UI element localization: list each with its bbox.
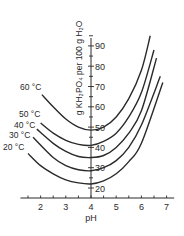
y-axis-label: g KH₂PO₄ per 100 g H₂O	[74, 20, 84, 115]
x-tick-label: 6	[139, 202, 144, 212]
y-tick-label: 80	[95, 62, 105, 72]
curve-label: 60 °C	[20, 82, 41, 92]
chart-svg: 2345672030405060708090 60 °C50 °C40 °C30…	[0, 0, 184, 236]
curve-labels: 60 °C50 °C40 °C30 °C20 °C	[3, 82, 41, 152]
y-tick-label: 20	[95, 184, 105, 194]
x-tick-label: 4	[88, 202, 93, 212]
x-tick-label: 7	[164, 202, 169, 212]
curve-label: 50 °C	[19, 109, 40, 119]
x-tick-label: 5	[114, 202, 119, 212]
x-tick-label: 3	[63, 202, 68, 212]
y-tick-label: 90	[95, 41, 105, 51]
y-tick-label: 70	[95, 82, 105, 92]
curve-label: 30 °C	[9, 130, 30, 140]
x-axis-label: pH	[85, 213, 97, 223]
y-tick-label: 60	[95, 102, 105, 112]
curve-label: 40 °C	[14, 120, 35, 130]
x-tick-label: 2	[38, 202, 43, 212]
curve-label: 20 °C	[3, 142, 24, 152]
solubility-chart: 2345672030405060708090 60 °C50 °C40 °C30…	[0, 0, 184, 236]
